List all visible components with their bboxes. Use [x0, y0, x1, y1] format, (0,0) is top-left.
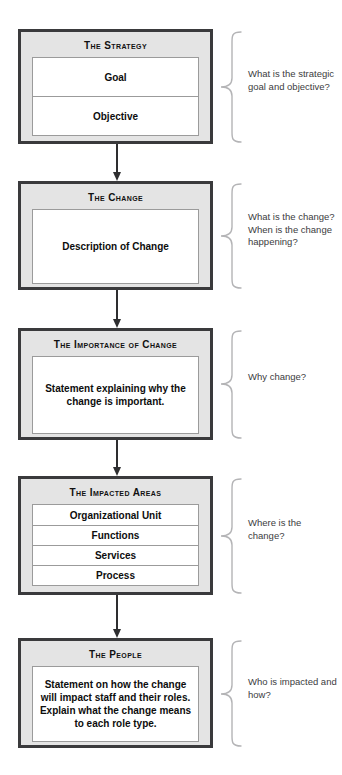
panel-row: Objective	[33, 96, 198, 135]
box-people[interactable]: The People Statement on how the change w…	[18, 638, 213, 748]
panel-row[interactable]: Functions	[33, 525, 198, 545]
connector-impacted-to-people	[113, 595, 120, 638]
annotation-change: What is the change? When is the change h…	[248, 211, 340, 249]
brace-importance-of-change	[219, 330, 245, 439]
panel-row-label: Organizational Unit	[39, 509, 192, 522]
panel-row-label: Statement on how the change will impact …	[39, 678, 192, 730]
panel-row[interactable]: Process	[33, 565, 198, 585]
box-importance-of-change[interactable]: The Importance of Change Statement expla…	[18, 328, 213, 440]
brace-change	[219, 183, 245, 289]
box-title-people: The People	[32, 647, 199, 666]
panel-row: Goal	[33, 58, 198, 96]
panel-change: Description of Change	[32, 209, 199, 284]
box-strategy[interactable]: The Strategy Goal Objective	[18, 29, 213, 144]
brace-strategy	[219, 31, 245, 143]
panel-people: Statement on how the change will impact …	[32, 666, 199, 742]
diagram-canvas: The Strategy Goal Objective What is the …	[0, 0, 342, 775]
panel-row: Description of Change	[33, 210, 198, 283]
panel-row-label: Goal	[39, 71, 192, 84]
panel-row-label: Description of Change	[39, 240, 192, 253]
panel-impacted-areas: Organizational Unit Functions Services P…	[32, 504, 199, 586]
panel-row: Statement on how the change will impact …	[33, 667, 198, 741]
panel-row[interactable]: Organizational Unit	[33, 505, 198, 525]
annotation-strategy: What is the strategic goal and objective…	[248, 68, 340, 93]
panel-row-label: Objective	[39, 110, 192, 123]
box-title-impacted-areas: The Impacted Areas	[32, 485, 199, 504]
panel-row-label: Services	[39, 549, 192, 562]
connector-change-to-importance	[113, 290, 120, 328]
panel-strategy: Goal Objective	[32, 57, 199, 136]
panel-row[interactable]: Services	[33, 545, 198, 565]
connector-strategy-to-change	[113, 144, 120, 181]
annotation-importance-of-change: Why change?	[248, 371, 340, 384]
annotation-people: Who is impacted and how?	[248, 676, 340, 701]
connector-importance-to-impacted	[113, 440, 120, 476]
annotation-impacted-areas: Where is the change?	[248, 517, 340, 542]
box-impacted-areas[interactable]: The Impacted Areas Organizational Unit F…	[18, 476, 213, 595]
box-title-strategy: The Strategy	[32, 38, 199, 57]
brace-people	[219, 640, 245, 747]
panel-row-label: Functions	[39, 529, 192, 542]
panel-row-label: Process	[39, 569, 192, 582]
brace-impacted-areas	[219, 478, 245, 594]
panel-row-label: Statement explaining why the change is i…	[39, 382, 192, 408]
box-title-importance-of-change: The Importance of Change	[32, 337, 199, 356]
box-change[interactable]: The Change Description of Change	[18, 181, 213, 290]
panel-importance-of-change: Statement explaining why the change is i…	[32, 356, 199, 434]
panel-row: Statement explaining why the change is i…	[33, 357, 198, 433]
box-title-change: The Change	[32, 190, 199, 209]
